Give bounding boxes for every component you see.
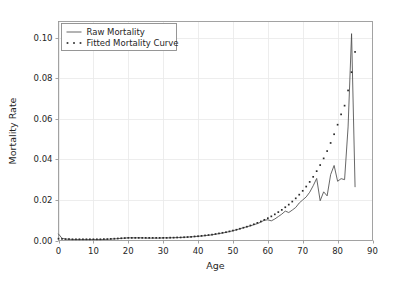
x-tick-label: 0 — [56, 246, 61, 256]
data-point-marker — [354, 51, 356, 53]
data-point-marker — [187, 236, 189, 238]
data-point-marker — [194, 236, 196, 238]
data-point-marker — [120, 237, 122, 239]
data-point-marker — [148, 237, 150, 239]
data-point-marker — [162, 237, 164, 239]
data-point-marker — [225, 231, 227, 233]
data-point-marker — [211, 234, 213, 236]
y-tick-label: 0.02 — [34, 195, 53, 205]
x-tick-label: 10 — [88, 246, 99, 256]
legend-swatch-dot — [67, 42, 69, 44]
data-point-marker — [138, 237, 140, 239]
data-point-marker — [326, 150, 328, 152]
data-point-marker — [65, 238, 67, 240]
data-point-marker — [295, 197, 297, 199]
data-point-marker — [243, 227, 245, 229]
data-point-marker — [201, 235, 203, 237]
data-point-marker — [340, 114, 342, 116]
y-tick-label: 0.00 — [34, 236, 53, 246]
data-point-marker — [145, 237, 147, 239]
data-point-marker — [96, 238, 98, 240]
data-point-marker — [246, 226, 248, 228]
data-point-marker — [124, 237, 126, 239]
data-point-marker — [93, 238, 95, 240]
x-tick-label: 80 — [332, 246, 343, 256]
x-tick-label: 40 — [193, 246, 204, 256]
legend-swatch-dot — [80, 42, 82, 44]
data-point-marker — [260, 221, 262, 223]
data-point-marker — [204, 235, 206, 237]
data-point-marker — [316, 170, 318, 172]
y-tick-label: 0.04 — [34, 154, 53, 164]
data-point-marker — [103, 238, 105, 240]
data-point-marker — [347, 90, 349, 92]
y-tick-label: 0.08 — [34, 73, 53, 83]
data-point-marker — [180, 237, 182, 239]
x-tick-label: 20 — [123, 246, 134, 256]
data-point-marker — [302, 190, 304, 192]
data-point-marker — [253, 223, 255, 225]
data-point-marker — [263, 219, 265, 221]
x-tick-label: 30 — [158, 246, 169, 256]
data-point-marker — [127, 237, 129, 239]
data-point-marker — [333, 133, 335, 135]
data-point-marker — [176, 237, 178, 239]
data-point-marker — [155, 237, 157, 239]
y-axis-title: Mortality Rate — [7, 97, 18, 164]
x-tick-label: 90 — [367, 246, 378, 256]
chart-canvas: 0102030405060708090 0.000.020.040.060.08… — [0, 0, 398, 284]
x-tick-label: 50 — [228, 246, 239, 256]
data-point-marker — [215, 233, 217, 235]
data-point-marker — [222, 232, 224, 234]
data-point-marker — [79, 238, 81, 240]
data-point-marker — [229, 231, 231, 233]
data-point-marker — [106, 238, 108, 240]
data-point-marker — [267, 217, 269, 219]
data-point-marker — [312, 176, 314, 178]
data-point-marker — [284, 206, 286, 208]
data-point-marker — [173, 237, 175, 239]
data-point-marker — [75, 238, 77, 240]
data-point-marker — [288, 204, 290, 206]
data-point-marker — [309, 181, 311, 183]
data-point-marker — [337, 124, 339, 126]
data-point-marker — [344, 105, 346, 107]
legend-swatch-dot — [73, 42, 75, 44]
data-point-marker — [141, 237, 143, 239]
data-point-marker — [351, 71, 353, 73]
data-point-marker — [274, 213, 276, 215]
data-point-marker — [152, 237, 154, 239]
data-point-marker — [319, 164, 321, 166]
legend-label: Fitted Mortality Curve — [87, 38, 179, 48]
data-point-marker — [218, 233, 220, 235]
data-point-marker — [72, 238, 74, 240]
data-point-marker — [236, 229, 238, 231]
data-point-marker — [330, 142, 332, 144]
data-point-marker — [68, 238, 70, 240]
data-point-marker — [89, 238, 91, 240]
data-point-marker — [232, 230, 234, 232]
data-point-marker — [277, 211, 279, 213]
data-point-marker — [305, 186, 307, 188]
data-point-marker — [183, 236, 185, 238]
data-point-marker — [250, 225, 252, 227]
mortality-rate-chart-figure: 0102030405060708090 0.000.020.040.060.08… — [0, 0, 398, 284]
data-point-marker — [169, 237, 171, 239]
x-tick-label: 60 — [262, 246, 273, 256]
data-point-marker — [166, 237, 168, 239]
x-axis-title: Age — [206, 260, 225, 271]
data-point-marker — [291, 201, 293, 203]
data-point-marker — [257, 222, 259, 224]
data-point-marker — [117, 238, 119, 240]
y-tick-label: 0.10 — [34, 33, 53, 43]
data-point-marker — [159, 237, 161, 239]
x-tick-label: 70 — [297, 246, 308, 256]
data-point-marker — [134, 237, 136, 239]
data-point-marker — [58, 238, 60, 240]
data-point-marker — [197, 235, 199, 237]
data-point-marker — [281, 209, 283, 211]
chart-legend: Raw MortalityFitted Mortality Curve — [62, 24, 179, 51]
data-point-marker — [100, 238, 102, 240]
legend-label: Raw Mortality — [87, 27, 145, 37]
data-point-marker — [208, 234, 210, 236]
